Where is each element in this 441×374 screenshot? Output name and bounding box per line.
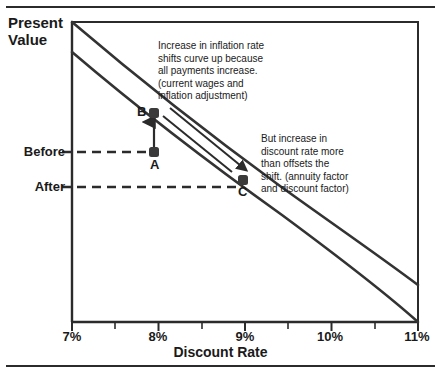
- x-tick-label-11: 11%: [394, 330, 440, 344]
- annotation-discount-offset: But increase in discount rate more than …: [261, 133, 386, 196]
- annotation-inflation-shift: Increase in inflation rate shifts curve …: [158, 40, 288, 103]
- x-tick-label-7: 7%: [49, 330, 95, 344]
- x-tick-label-9: 9%: [222, 330, 268, 344]
- y-tick-label-after: After: [5, 180, 65, 194]
- data-point-a: [149, 147, 159, 157]
- arrow-b-to-c: [163, 108, 246, 172]
- x-tick-label-10: 10%: [307, 330, 353, 344]
- x-tick-label-8: 8%: [135, 330, 181, 344]
- point-label-a: A: [150, 158, 159, 172]
- y-tick-label-before: Before: [5, 145, 65, 159]
- data-point-b: [149, 108, 159, 118]
- point-label-c: C: [238, 185, 247, 199]
- point-label-b: B: [137, 105, 146, 119]
- figure-root: Present Value Before After 7% 8% 9% 10% …: [0, 0, 441, 374]
- y-axis-title: Present Value: [8, 14, 63, 48]
- x-axis-title: Discount Rate: [0, 345, 441, 359]
